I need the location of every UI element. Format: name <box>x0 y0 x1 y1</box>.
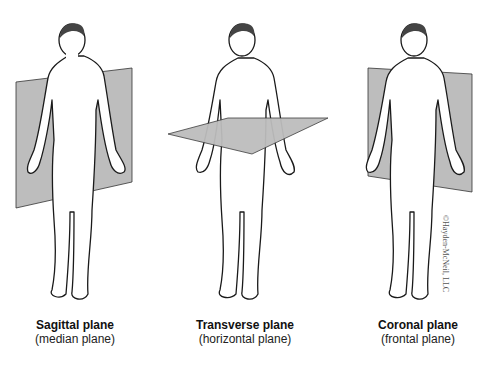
transverse-figure-illustration <box>160 0 330 300</box>
sagittal-title: Sagittal plane <box>5 318 145 332</box>
copyright-notice: ©Hayden-McNeil, LLC <box>441 215 450 292</box>
coronal-figure-illustration <box>330 0 488 300</box>
coronal-subtitle: (frontal plane) <box>348 332 488 346</box>
transverse-caption: Transverse plane (horizontal plane) <box>175 318 315 346</box>
transverse-plane-shape <box>168 118 328 154</box>
transverse-subtitle: (horizontal plane) <box>175 332 315 346</box>
coronal-panel <box>330 0 488 300</box>
coronal-caption: Coronal plane (frontal plane) <box>348 318 488 346</box>
coronal-title: Coronal plane <box>348 318 488 332</box>
sagittal-figure-illustration <box>0 0 160 300</box>
sagittal-subtitle: (median plane) <box>5 332 145 346</box>
sagittal-panel <box>0 0 160 300</box>
transverse-title: Transverse plane <box>175 318 315 332</box>
sagittal-caption: Sagittal plane (median plane) <box>5 318 145 346</box>
transverse-panel <box>160 0 330 300</box>
